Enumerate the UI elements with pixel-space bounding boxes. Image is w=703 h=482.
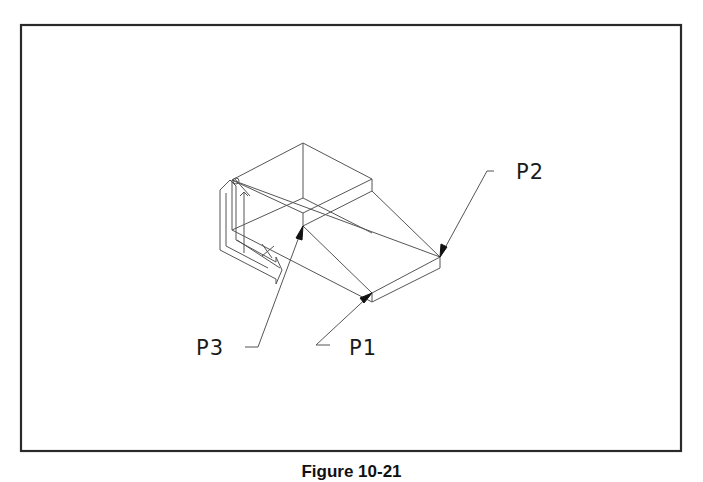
label-p3: P3 <box>196 336 224 360</box>
figure-caption: Figure 10-21 <box>0 462 703 482</box>
ucs-icon <box>220 178 282 284</box>
leader-p2 <box>440 171 494 257</box>
drawing-border <box>21 25 681 451</box>
isometric-part <box>232 143 440 302</box>
leader-p3 <box>245 226 303 347</box>
label-p2: P2 <box>516 160 544 184</box>
label-p1: P1 <box>349 336 377 360</box>
